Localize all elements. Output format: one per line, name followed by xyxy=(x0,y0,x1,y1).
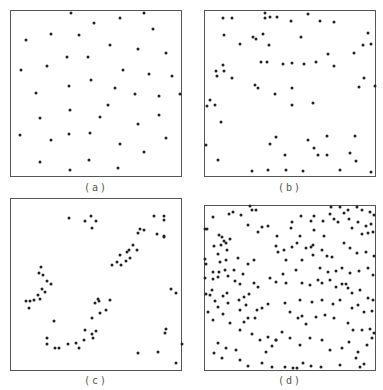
data-point xyxy=(84,220,87,223)
data-point xyxy=(229,238,232,241)
data-point xyxy=(313,147,316,150)
data-point xyxy=(333,218,336,221)
data-point xyxy=(301,282,304,285)
data-point xyxy=(40,266,43,269)
data-point xyxy=(311,301,314,304)
data-point xyxy=(126,251,129,254)
data-point xyxy=(335,286,338,289)
data-point xyxy=(99,116,102,119)
data-point xyxy=(326,154,329,157)
data-point xyxy=(156,233,159,236)
data-point xyxy=(129,257,132,260)
data-point xyxy=(205,263,208,266)
data-point xyxy=(321,249,324,252)
data-point xyxy=(319,267,322,270)
data-point xyxy=(302,362,305,365)
data-point xyxy=(283,249,286,252)
data-point xyxy=(95,220,98,223)
data-point xyxy=(315,316,318,319)
data-point xyxy=(35,92,38,95)
data-point xyxy=(260,61,263,64)
data-point xyxy=(54,347,57,350)
data-point xyxy=(46,280,49,283)
data-point xyxy=(307,139,310,142)
data-point xyxy=(367,297,370,300)
data-point xyxy=(137,123,140,126)
data-point xyxy=(290,227,293,230)
data-point xyxy=(353,52,356,55)
data-point xyxy=(265,351,268,354)
data-point xyxy=(264,17,267,20)
data-point xyxy=(354,135,357,138)
data-point xyxy=(351,292,354,295)
data-point xyxy=(307,13,310,16)
data-point xyxy=(333,21,336,24)
data-point xyxy=(361,329,364,332)
data-point xyxy=(33,299,36,302)
data-point xyxy=(339,299,342,302)
data-point xyxy=(58,347,61,350)
data-point xyxy=(372,274,375,277)
data-point xyxy=(134,93,137,96)
data-point xyxy=(300,36,303,39)
data-point xyxy=(358,86,361,89)
data-point xyxy=(175,362,178,365)
data-point xyxy=(215,70,218,73)
data-point xyxy=(281,331,284,334)
data-point xyxy=(297,317,300,320)
data-point xyxy=(351,227,354,230)
data-point xyxy=(50,33,53,36)
data-point xyxy=(269,16,272,19)
data-point xyxy=(95,330,98,333)
data-point xyxy=(68,133,71,136)
data-point xyxy=(117,167,120,170)
data-point xyxy=(143,229,146,232)
data-point xyxy=(352,329,355,332)
data-point xyxy=(329,279,332,282)
data-point xyxy=(333,65,336,68)
data-point xyxy=(219,261,222,264)
data-point xyxy=(249,205,252,208)
data-point xyxy=(351,307,354,310)
data-point xyxy=(171,75,174,78)
data-point xyxy=(153,215,156,218)
data-point xyxy=(119,254,122,257)
data-point xyxy=(327,271,330,274)
data-point xyxy=(363,311,366,314)
data-point xyxy=(310,365,313,368)
data-point xyxy=(373,332,376,335)
data-point xyxy=(337,221,340,224)
data-point xyxy=(355,160,358,163)
data-point xyxy=(46,65,49,68)
data-point xyxy=(222,313,225,316)
data-point xyxy=(91,317,94,320)
data-point xyxy=(227,302,230,305)
data-point xyxy=(255,38,258,41)
data-point xyxy=(291,104,294,107)
data-point xyxy=(247,317,250,320)
data-point xyxy=(347,322,350,325)
data-point xyxy=(50,283,53,286)
data-point xyxy=(309,284,312,287)
data-point xyxy=(253,259,256,262)
data-point xyxy=(165,328,168,331)
data-point xyxy=(315,61,318,64)
data-point xyxy=(87,56,90,59)
data-point xyxy=(211,289,214,292)
data-point xyxy=(98,300,101,303)
data-point xyxy=(251,333,254,336)
data-point xyxy=(38,272,41,275)
data-point xyxy=(158,95,161,98)
data-point xyxy=(122,69,125,72)
data-point xyxy=(69,109,72,112)
data-point xyxy=(29,300,32,303)
data-point xyxy=(261,307,264,310)
data-point xyxy=(357,304,360,307)
data-point xyxy=(284,366,287,369)
data-point xyxy=(367,267,370,270)
data-point xyxy=(231,17,234,20)
data-point xyxy=(339,169,342,172)
data-point xyxy=(324,314,327,317)
data-point xyxy=(217,253,220,256)
data-point xyxy=(170,288,173,291)
